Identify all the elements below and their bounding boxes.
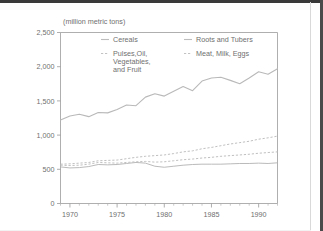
x-axis-ticks: 19701975198019851990 — [62, 204, 267, 219]
y-tick-label: 2,500 — [37, 28, 55, 37]
plot-area: (million metric tons) 05001,0001,5002,00… — [0, 0, 311, 231]
legend-label-and-fruit: and Fruit — [113, 65, 141, 74]
legend-label-meat-milk-eggs: Meat, Milk, Eggs — [196, 49, 250, 58]
chart-legend: Cereals Roots and Tubers Pulses,Oil, Veg… — [101, 35, 253, 74]
x-tick-label: 1985 — [203, 210, 219, 219]
y-tick-label: 1,000 — [37, 131, 55, 140]
x-tick-label: 1990 — [251, 210, 267, 219]
y-tick-label: 1,500 — [37, 97, 55, 106]
y-tick-label: 0 — [51, 199, 55, 208]
y-tick-label: 500 — [43, 165, 55, 174]
x-tick-label: 1980 — [156, 210, 172, 219]
series-line-pulses-oil-vegetables-and-fruit — [61, 136, 278, 164]
y-axis-ticks: 05001,0001,5002,0002,500 — [37, 28, 61, 208]
series-line-cereals — [61, 69, 278, 120]
legend-label-cereals: Cereals — [113, 35, 138, 44]
axes — [61, 33, 278, 204]
x-tick-label: 1975 — [109, 210, 125, 219]
chart-figure: (million metric tons) 05001,0001,5002,00… — [0, 0, 323, 231]
legend-label-roots-and-tubers: Roots and Tubers — [196, 35, 253, 44]
y-tick-label: 2,000 — [37, 62, 55, 71]
line-chart: (million metric tons) 05001,0001,5002,00… — [0, 0, 311, 231]
x-tick-label: 1970 — [62, 210, 78, 219]
unit-label: (million metric tons) — [63, 17, 125, 26]
data-series-group — [61, 69, 278, 168]
